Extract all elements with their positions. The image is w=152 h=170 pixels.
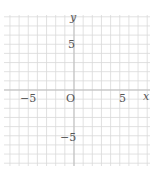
y-tick-label-5: 5 [68,39,75,50]
coordinate-grid [0,0,152,170]
x-tick-label-neg5: −5 [20,93,36,104]
y-axis-label: y [70,12,76,23]
x-tick-label-5: 5 [119,93,126,104]
y-tick-label-neg5: −5 [60,132,76,143]
origin-label: O [66,93,75,104]
x-axis-label: x [143,91,149,102]
